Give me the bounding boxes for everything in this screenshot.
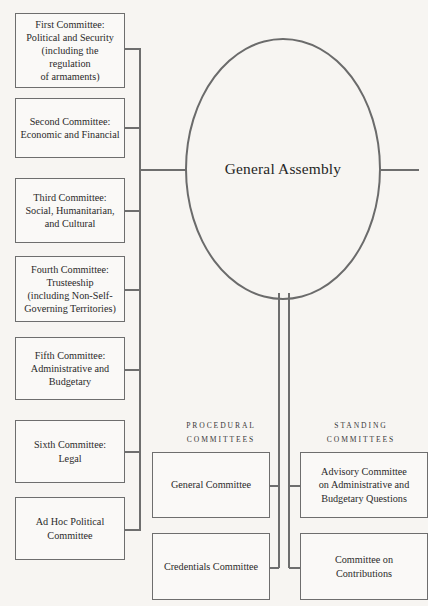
committee-box-second[interactable]: Second Committee: Economic and Financial xyxy=(15,98,125,158)
committee-label-sixth: Sixth Committee: Legal xyxy=(34,438,106,464)
connector-stub-credentials-committee xyxy=(270,567,279,569)
connector-stub-first xyxy=(125,48,140,50)
committee-label-fourth: Fourth Committee: Trusteeship (including… xyxy=(24,263,116,315)
committee-box-sixth[interactable]: Sixth Committee: Legal xyxy=(15,420,125,483)
connector-stub-second xyxy=(125,127,140,129)
standing-box-committee-on-contributions[interactable]: Committee on Contributions xyxy=(300,533,428,600)
general-assembly-label: General Assembly xyxy=(225,160,341,178)
procedural-label-general-committee: General Committee xyxy=(171,478,251,491)
standing-label-advisory-committee: Advisory Committee on Administrative and… xyxy=(319,465,410,504)
procedural-label-credentials-committee: Credentials Committee xyxy=(164,560,258,573)
committee-label-third: Third Committee: Social, Humanitarian, a… xyxy=(25,191,114,230)
standing-box-advisory-committee[interactable]: Advisory Committee on Administrative and… xyxy=(300,452,428,518)
connector-stub-sixth xyxy=(125,451,140,453)
connector-stub-committee-on-contributions xyxy=(289,567,301,569)
connector-assembly-to-right xyxy=(379,169,419,171)
connector-bus-to-assembly xyxy=(139,169,189,171)
procedural-committees-heading: Procedural Committees xyxy=(166,419,276,447)
general-assembly-node[interactable]: General Assembly xyxy=(185,38,381,300)
procedural-box-general-committee[interactable]: General Committee xyxy=(152,452,270,518)
standing-label-committee-on-contributions: Committee on Contributions xyxy=(335,553,393,579)
committee-box-fifth[interactable]: Fifth Committee: Administrative and Budg… xyxy=(15,337,125,400)
committee-label-fifth: Fifth Committee: Administrative and Budg… xyxy=(31,349,109,388)
procedural-box-credentials-committee[interactable]: Credentials Committee xyxy=(152,533,270,600)
connector-stub-general-committee xyxy=(270,485,279,487)
standing-committees-heading: Standing Committees xyxy=(306,419,416,447)
connector-stub-ad-hoc-political xyxy=(125,529,140,531)
committee-box-ad-hoc-political[interactable]: Ad Hoc Political Committee xyxy=(15,497,125,560)
committee-label-first: First Committee: Political and Security … xyxy=(20,18,120,83)
connector-stub-third xyxy=(125,210,140,212)
committee-box-third[interactable]: Third Committee: Social, Humanitarian, a… xyxy=(15,178,125,243)
connector-trunk-procedural xyxy=(278,293,280,568)
committee-label-second: Second Committee: Economic and Financial xyxy=(20,115,119,141)
connector-stub-fifth xyxy=(125,369,140,371)
connector-trunk-standing xyxy=(288,293,290,568)
connector-stub-advisory-committee xyxy=(289,485,301,487)
connector-stub-fourth xyxy=(125,289,140,291)
committee-label-ad-hoc-political: Ad Hoc Political Committee xyxy=(36,515,104,541)
committee-box-first[interactable]: First Committee: Political and Security … xyxy=(15,13,125,88)
committee-box-fourth[interactable]: Fourth Committee: Trusteeship (including… xyxy=(15,256,125,322)
